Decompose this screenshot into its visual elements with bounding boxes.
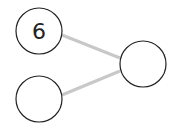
edge-bottom-left-to-right [62, 71, 120, 95]
diagram-canvas: 6 [0, 0, 183, 135]
node-bottom-left [16, 76, 62, 122]
node-top-left: 6 [16, 8, 62, 54]
node-right [120, 41, 166, 87]
node-label: 6 [32, 19, 46, 44]
edge-top-left-to-right [62, 35, 120, 58]
